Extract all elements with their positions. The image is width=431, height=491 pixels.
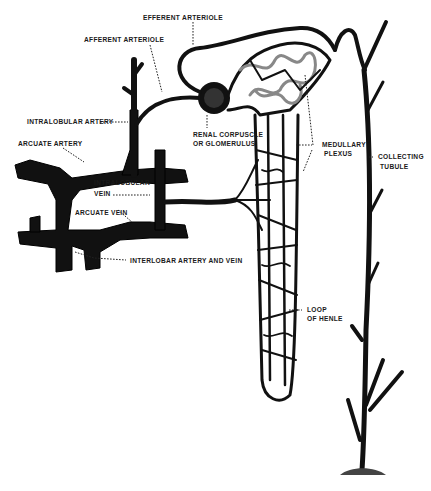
label-efferent-arteriole: EFFERENT ARTERIOLE <box>143 13 223 22</box>
label-medullary-plexus-line2: PLEXUS <box>324 149 352 158</box>
label-arcuate-vein: ARCUATE VEIN <box>75 208 128 217</box>
label-renal-corpuscle-line1: RENAL CORPUSCLE <box>193 130 263 139</box>
label-collecting-tubule-line2: TUBULE <box>380 162 409 171</box>
label-loop-of-henle-line2: OF HENLE <box>307 314 343 323</box>
loop-of-henle <box>255 115 298 400</box>
label-interlobar-artery-and-vein: INTERLOBAR ARTERY AND VEIN <box>130 256 242 265</box>
label-medullary-plexus-line1: MEDULLARY <box>322 140 366 149</box>
collecting-tubule <box>340 22 402 475</box>
label-arcuate-artery: ARCUATE ARTERY <box>18 139 82 148</box>
label-renal-corpuscle-line2: OR GLOMERULUS <box>193 139 256 148</box>
label-intralobular-vein-line2: VEIN <box>94 189 111 198</box>
nephron-diagram: EFFERENT ARTERIOLE AFFERENT ARTERIOLE IN… <box>0 0 431 491</box>
label-intralobular-vein-line1: INTRALOBULAR <box>94 178 150 187</box>
convoluted-tubules <box>228 30 365 115</box>
label-afferent-arteriole: AFFERENT ARTERIOLE <box>84 35 164 44</box>
label-intralobular-artery: INTRALOBULAR ARTERY <box>27 117 114 126</box>
label-collecting-tubule-line1: COLLECTING <box>378 152 424 161</box>
label-loop-of-henle-line1: LOOP <box>307 305 327 314</box>
